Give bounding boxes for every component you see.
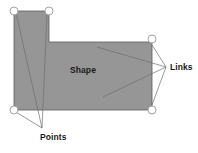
points-leader-line-3 xyxy=(16,112,42,128)
label-links: Links xyxy=(170,62,193,72)
diagram-canvas: Shape Links Points xyxy=(0,0,198,153)
handle-bottom-right[interactable] xyxy=(148,106,156,114)
handle-bottom-left[interactable] xyxy=(10,106,18,114)
diagram-root: Shape Links Points xyxy=(0,0,198,153)
handle-mid-right-top[interactable] xyxy=(148,35,156,43)
label-points: Points xyxy=(40,132,67,142)
handle-top-left[interactable] xyxy=(10,7,18,15)
label-shape: Shape xyxy=(70,65,96,75)
handle-top-right[interactable] xyxy=(45,7,53,15)
